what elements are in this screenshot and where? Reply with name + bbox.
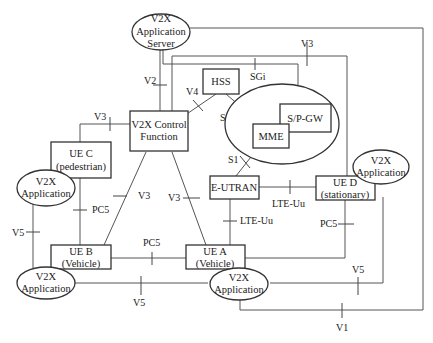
- v3-cf-uec-link: [80, 124, 130, 142]
- v2x-application-c[interactable]: V2X Application: [17, 170, 75, 206]
- app-a-line2: Application: [214, 284, 264, 295]
- label-v3-top: V3: [301, 38, 313, 49]
- spgw-label: S/P-GW: [287, 113, 323, 124]
- ue-b-vehicle[interactable]: UE B (Vehicle): [51, 245, 111, 270]
- app-server-line2: Application: [136, 26, 186, 37]
- mme-label: MME: [258, 131, 283, 142]
- app-server-line3: Server: [147, 38, 175, 49]
- ue-d-line1: UE D: [333, 177, 358, 188]
- v2x-application-b[interactable]: V2X Application: [17, 267, 75, 299]
- label-pc5-cb: PC5: [92, 204, 109, 215]
- hss-node[interactable]: HSS: [203, 69, 239, 94]
- label-lte-uu-a: LTE-Uu: [240, 215, 273, 226]
- label-v3-uea: V3: [168, 192, 180, 203]
- v2x-application-d[interactable]: V2X Application: [353, 150, 409, 184]
- app-d-line1: V2X: [371, 155, 392, 166]
- label-lte-uu-d: LTE-Uu: [272, 198, 305, 209]
- hss-label: HSS: [211, 76, 230, 87]
- app-b-line1: V2X: [36, 271, 57, 282]
- ue-c-line2: (pedestrian): [56, 161, 107, 173]
- v2x-control-function[interactable]: V2X Control Function: [130, 111, 188, 151]
- app-d-line2: Application: [356, 167, 406, 178]
- ue-a-vehicle[interactable]: UE A (Vehicle): [186, 245, 245, 270]
- cf-line2: Function: [140, 131, 178, 142]
- label-v5-bottom: V5: [133, 297, 145, 308]
- v2x-application-a[interactable]: V2X Application: [210, 268, 268, 300]
- v2x-application-server[interactable]: V2X Application Server: [132, 13, 190, 50]
- label-v5-right: V5: [352, 264, 364, 275]
- e-utran-label: E-UTRAN: [211, 182, 257, 193]
- app-c-line2: Application: [21, 188, 71, 199]
- v2x-architecture-diagram: V3 SGi V2 V4 S6a V3 S1 V3 V3 LTE-Uu LTE-…: [0, 0, 433, 343]
- label-v3-ueb: V3: [138, 190, 150, 201]
- v5-appa-appd-link: [270, 197, 383, 283]
- label-v3-uec: V3: [94, 111, 106, 122]
- ue-d-line2: (stationary): [321, 189, 370, 201]
- app-b-line2: Application: [21, 283, 71, 294]
- app-server-line1: V2X: [151, 13, 172, 24]
- ue-a-line2: (Vehicle): [196, 258, 235, 270]
- ue-b-line2: (Vehicle): [62, 258, 101, 270]
- mme-node[interactable]: MME: [253, 124, 289, 148]
- app-a-line1: V2X: [229, 272, 250, 283]
- label-v5-left: V5: [12, 227, 24, 238]
- label-pc5-ad: PC5: [320, 218, 337, 229]
- label-v1: V1: [336, 322, 348, 333]
- label-v4: V4: [186, 86, 198, 97]
- label-s1: S1: [228, 154, 239, 165]
- e-utran-node[interactable]: E-UTRAN: [210, 176, 259, 199]
- ue-a-line1: UE A: [203, 246, 227, 257]
- cf-line1: V2X Control: [131, 119, 186, 130]
- label-pc5-ba: PC5: [143, 237, 160, 248]
- ue-c-line1: UE C: [69, 148, 93, 159]
- label-sgi: SGi: [250, 71, 266, 82]
- ue-b-line1: UE B: [69, 246, 93, 257]
- app-c-line1: V2X: [36, 176, 57, 187]
- label-v2: V2: [144, 75, 156, 86]
- interface-ticks: [26, 42, 358, 318]
